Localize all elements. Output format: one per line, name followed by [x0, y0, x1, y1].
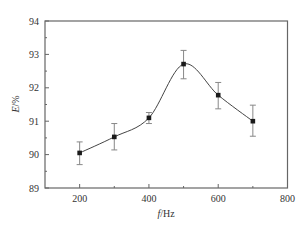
- y-axis-label-unit: /%: [10, 95, 21, 106]
- series-curve: [80, 64, 253, 153]
- y-tick-label: 93: [29, 49, 39, 60]
- data-point: [251, 119, 256, 124]
- data-point: [181, 62, 186, 67]
- error-bars: [77, 50, 256, 164]
- x-tick-label: 800: [280, 193, 295, 204]
- data-point: [112, 135, 117, 140]
- data-point: [147, 116, 152, 121]
- x-tick-label: 400: [141, 193, 156, 204]
- data-point: [77, 151, 82, 156]
- ticks: 899091929394200400600800: [29, 16, 295, 205]
- y-axis-label-symbol: E: [10, 107, 21, 114]
- markers: [77, 62, 255, 155]
- y-tick-label: 89: [29, 183, 39, 194]
- y-axis-label: E/%: [10, 95, 21, 113]
- curve-layer: [80, 64, 253, 153]
- data-point: [216, 93, 221, 98]
- y-tick-label: 90: [29, 149, 39, 160]
- chart: 899091929394200400600800 f/Hz E/%: [0, 0, 307, 228]
- y-tick-label: 94: [29, 16, 39, 27]
- y-tick-label: 91: [29, 116, 39, 127]
- axes: [45, 21, 288, 188]
- y-tick-label: 92: [29, 82, 39, 93]
- x-axis-label-unit: /Hz: [160, 208, 175, 219]
- x-tick-label: 200: [72, 193, 87, 204]
- x-tick-label: 600: [211, 193, 226, 204]
- x-axis-label: f/Hz: [157, 208, 175, 219]
- plot-frame: [45, 21, 288, 188]
